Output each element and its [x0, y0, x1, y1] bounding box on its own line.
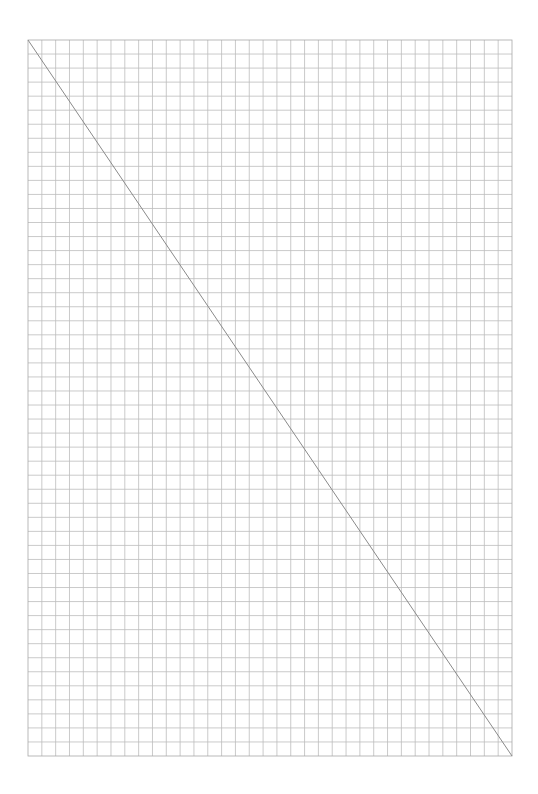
graph-paper-grid: [0, 0, 538, 794]
diagonal-line: [28, 40, 512, 756]
